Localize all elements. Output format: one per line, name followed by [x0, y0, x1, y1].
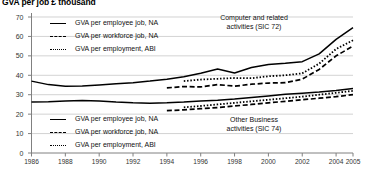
legend-item: GVA per employment, ABI — [48, 138, 158, 151]
legend-item: GVA per workforce job, NA — [48, 29, 158, 42]
x-tick-label: 1992 — [119, 158, 147, 165]
annotation-sic74: Other Business activities (SIC 74) — [196, 116, 312, 133]
x-tick-label: 2005 — [339, 158, 365, 165]
legend-item: GVA per employee job, NA — [48, 112, 158, 125]
legend-item-label: GVA per workforce job, NA — [75, 128, 158, 135]
legend-item: GVA per employee job, NA — [48, 16, 158, 29]
y-tick-label: 20 — [4, 111, 24, 118]
legend-item-label: GVA per workforce job, NA — [75, 32, 158, 39]
x-tick-label: 2000 — [254, 158, 282, 165]
series-line — [32, 89, 354, 104]
x-tick-label: 2002 — [288, 158, 316, 165]
legend-key-dashed-icon — [48, 128, 68, 136]
annotation-sic72: Computer and related activities (SIC 72) — [196, 14, 312, 31]
legend-key-dotted-icon — [48, 141, 68, 149]
series-line — [167, 46, 353, 88]
legend-item-label: GVA per employment, ABI — [75, 45, 156, 52]
legend-key-solid-icon — [48, 115, 68, 123]
legend-item-label: GVA per employment, ABI — [75, 141, 156, 148]
legend-item: GVA per workforce job, NA — [48, 125, 158, 138]
annotation-sic74-line2: activities (SIC 74) — [196, 125, 312, 134]
x-tick-label: 1988 — [51, 158, 79, 165]
legend-item-label: GVA per employee job, NA — [75, 19, 158, 26]
x-tick-label: 1998 — [221, 158, 249, 165]
series-line — [184, 91, 353, 108]
y-tick-label: 60 — [4, 33, 24, 40]
legend-item: GVA per employment, ABI — [48, 42, 158, 55]
annotation-sic72-line2: activities (SIC 72) — [196, 23, 312, 32]
annotation-sic74-line1: Other Business — [196, 116, 312, 125]
legend-key-dotted-icon — [48, 45, 68, 53]
legend-item-label: GVA per employee job, NA — [75, 115, 158, 122]
y-tick-label: 0 — [4, 150, 24, 157]
y-tick-label: 70 — [4, 14, 24, 21]
legend-sic74: GVA per employee job, NAGVA per workforc… — [48, 112, 158, 151]
legend-sic72: GVA per employee job, NAGVA per workforc… — [48, 16, 158, 55]
legend-key-solid-icon — [48, 19, 68, 27]
x-tick-label: 1990 — [85, 158, 113, 165]
y-tick-label: 40 — [4, 72, 24, 79]
x-tick-label: 1994 — [153, 158, 181, 165]
x-tick-label: 1996 — [187, 158, 215, 165]
legend-key-dashed-icon — [48, 32, 68, 40]
y-tick-label: 30 — [4, 91, 24, 98]
y-tick-label: 50 — [4, 52, 24, 59]
y-tick-label: 10 — [4, 130, 24, 137]
annotation-sic72-line1: Computer and related — [196, 14, 312, 23]
x-tick-label: 1986 — [18, 158, 46, 165]
